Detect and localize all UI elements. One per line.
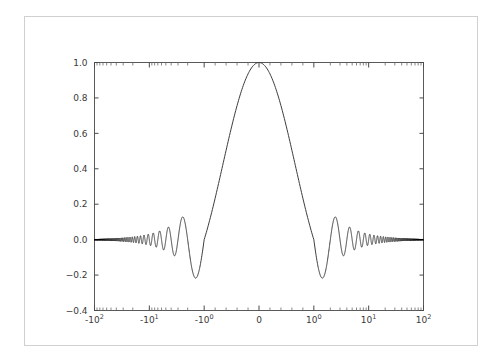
x-tick-label: 0	[256, 315, 262, 325]
axes-spines	[95, 63, 424, 311]
y-tick-label: 0.2	[73, 199, 87, 209]
x-tick-label: 101	[361, 313, 377, 325]
x-tick-label: 102	[416, 313, 432, 325]
screenshot-root: -102-101-1000100101102 1.00.80.60.40.20.…	[0, 0, 501, 362]
y-axis-tick-labels: 1.00.80.60.40.20.0−0.2−0.4	[66, 58, 88, 316]
y-tick-label: −0.2	[66, 270, 88, 280]
x-axis-minor-ticks	[97, 63, 421, 311]
sinc-curve-line	[95, 63, 424, 279]
x-axis-tick-labels: -102-101-1000100101102	[85, 313, 431, 325]
y-tick-label: 0.8	[73, 93, 88, 103]
y-axis-major-ticks	[95, 63, 424, 311]
x-tick-label: -101	[140, 313, 159, 325]
y-tick-label: 0.6	[73, 129, 88, 139]
y-tick-label: 0.0	[73, 235, 88, 245]
y-tick-label: 1.0	[73, 58, 88, 68]
x-tick-label: 100	[306, 313, 322, 325]
sinc-plot-figure: -102-101-1000100101102 1.00.80.60.40.20.…	[0, 0, 501, 362]
x-tick-label: -102	[85, 313, 104, 325]
y-tick-label: −0.4	[66, 306, 88, 316]
y-tick-label: 0.4	[73, 164, 88, 174]
x-axis-major-ticks	[95, 63, 424, 311]
x-tick-label: -100	[195, 313, 214, 325]
